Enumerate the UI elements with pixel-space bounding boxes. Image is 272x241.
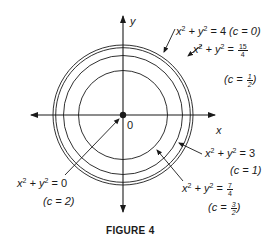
label-circle-c-three-halves: x2 + y2 = 74 (182, 182, 233, 197)
fraction-15-4: 154 (238, 43, 248, 58)
figure-caption: FIGURE 4 (106, 225, 155, 236)
label-c-three-halves: (c = 32) (208, 201, 240, 216)
x-axis-label: x (216, 125, 222, 136)
label-circle-c2: x2 + y2 = 0 (17, 178, 67, 189)
label-circle-c0: x2 + y2 = 4 (c = 0) (176, 26, 261, 37)
leader-c-three-halves (157, 150, 183, 181)
y-axis-label: y (130, 16, 136, 27)
leader-c0 (164, 29, 175, 52)
label-c1: (c = 1) (230, 165, 261, 176)
origin-point (120, 112, 126, 118)
label-c-half: (c = 12) (224, 73, 256, 88)
origin-label: 0 (127, 120, 133, 131)
label-circle-c1: x2 + y2 = 3 (205, 148, 255, 159)
label-circle-c-half: x2 + y2 = 154 (193, 43, 248, 58)
label-c2: (c = 2) (43, 196, 74, 207)
